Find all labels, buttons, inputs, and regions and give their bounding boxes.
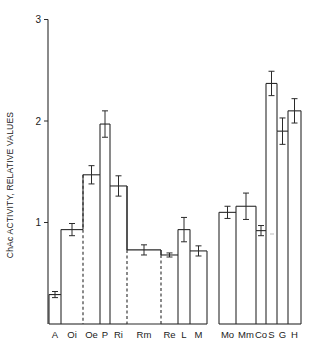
category-label: M <box>195 329 203 340</box>
bar-mm <box>236 193 256 324</box>
bar-co <box>256 226 266 324</box>
bar-ri <box>110 176 127 324</box>
category-label: Oi <box>67 329 77 340</box>
bar-oi <box>61 224 83 324</box>
category-label: Mm <box>238 329 254 340</box>
bar-re <box>161 250 178 324</box>
category-label: Mo <box>221 329 234 340</box>
y-tick-label: 1 <box>35 217 41 228</box>
bar-s <box>266 71 277 324</box>
category-label: Oe <box>85 329 98 340</box>
category-labels: AOiOePRiRmReLMMoMmCoSGH <box>52 329 298 340</box>
category-label: H <box>291 329 298 340</box>
bar-l <box>178 217 190 324</box>
category-label: Re <box>163 329 175 340</box>
y-axis-label: ChAc ACTIVITY, RELATIVE VALUES <box>5 112 15 258</box>
category-label: Co <box>255 329 267 340</box>
category-label: Ri <box>114 329 123 340</box>
category-label: G <box>279 329 286 340</box>
category-label: A <box>52 329 59 340</box>
y-tick-label: 2 <box>35 116 41 127</box>
category-label: S <box>268 329 274 340</box>
category-label: P <box>102 329 108 340</box>
category-label: Rm <box>137 329 152 340</box>
y-axis: 123 <box>35 14 48 324</box>
bar-a <box>49 292 61 324</box>
bar-h <box>288 99 301 324</box>
bar-p <box>100 111 110 324</box>
bar-m <box>190 246 207 324</box>
bar-chart: 123 AOiOePRiRmReLMMoMmCoSGH ChAc ACTIVIT… <box>0 0 316 347</box>
bar-oe <box>83 166 100 324</box>
bar-g <box>277 118 288 324</box>
bar-mo <box>219 206 236 324</box>
y-tick-label: 3 <box>35 14 41 25</box>
category-label: L <box>181 329 186 340</box>
bars <box>49 71 301 324</box>
bar-rm <box>127 186 161 324</box>
